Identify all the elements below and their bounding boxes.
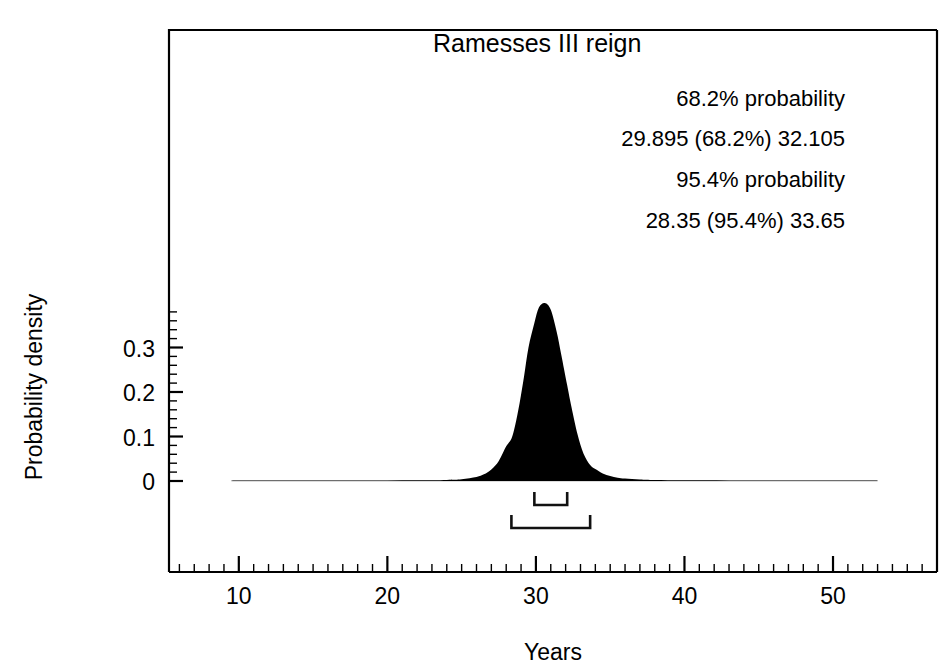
y-axis-title: Probability density	[21, 293, 47, 480]
x-axis-tick-labels: 1020304050	[226, 583, 846, 609]
annotation-line-68-range: 29.895 (68.2%) 32.105	[621, 126, 845, 151]
x-tick-label: 30	[523, 583, 549, 609]
y-tick-label: 0	[142, 469, 155, 495]
y-tick-label: 0.1	[123, 425, 155, 451]
x-axis-title: Years	[524, 639, 582, 665]
x-axis-ticks	[179, 556, 937, 572]
bracket-95	[511, 515, 590, 528]
y-tick-label: 0.2	[123, 380, 155, 406]
x-tick-label: 50	[820, 583, 846, 609]
range-brackets	[511, 492, 590, 528]
annotation-line-95-probability: 95.4% probability	[676, 167, 845, 192]
plot-frame	[169, 30, 937, 572]
x-tick-label: 40	[672, 583, 698, 609]
y-tick-label: 0.3	[123, 336, 155, 362]
chart-container: 00.10.20.3 1020304050 Ramesses III reign…	[0, 0, 951, 672]
x-tick-label: 10	[226, 583, 252, 609]
annotation-line-95-range: 28.35 (95.4%) 33.65	[646, 208, 845, 233]
chart-title: Ramesses III reign	[433, 29, 641, 57]
distribution-curve	[231, 303, 877, 481]
annotation-line-68-probability: 68.2% probability	[676, 86, 845, 111]
y-axis-ticks	[169, 312, 183, 481]
probability-distribution-chart: 00.10.20.3 1020304050 Ramesses III reign…	[0, 0, 951, 672]
y-axis-tick-labels: 00.10.20.3	[123, 336, 155, 496]
x-tick-label: 20	[375, 583, 401, 609]
bracket-68	[534, 492, 567, 505]
